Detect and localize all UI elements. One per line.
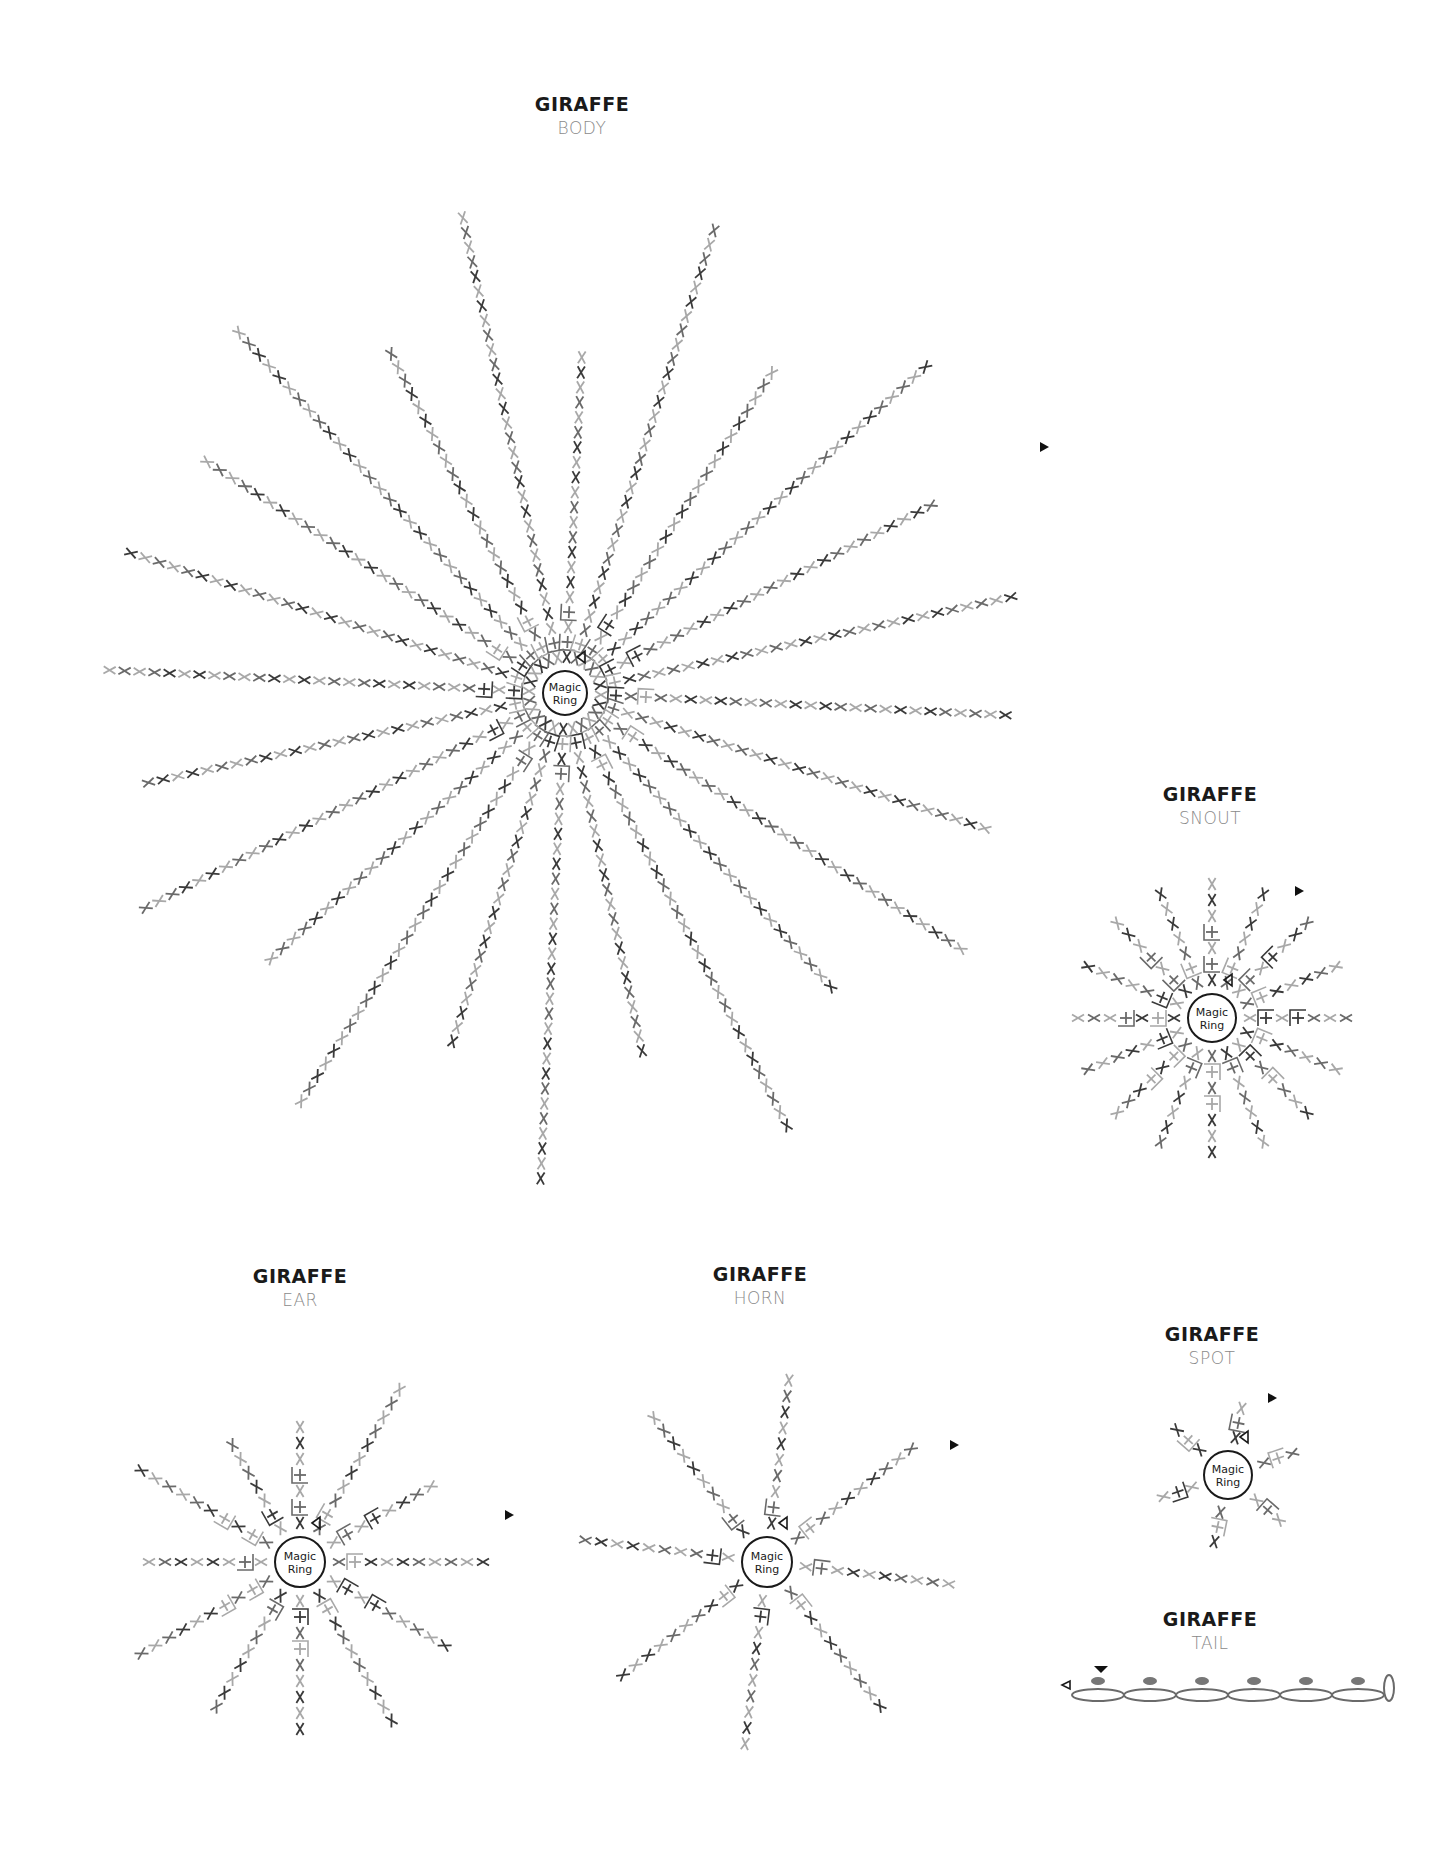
single-crochet-icon bbox=[480, 935, 491, 949]
single-crochet-icon bbox=[960, 602, 973, 612]
single-crochet-icon bbox=[1289, 1095, 1303, 1109]
front-loop-stitch-icon bbox=[713, 1585, 735, 1607]
single-crochet-icon bbox=[446, 745, 460, 757]
single-crochet-icon bbox=[1111, 1051, 1125, 1062]
front-loop-stitch-icon bbox=[1204, 924, 1220, 940]
single-crochet-icon bbox=[849, 704, 861, 712]
front-loop-stitch-icon bbox=[1150, 1010, 1166, 1026]
single-crochet-icon bbox=[433, 751, 447, 763]
single-crochet-icon bbox=[498, 741, 512, 754]
single-crochet-icon bbox=[258, 1616, 270, 1630]
single-crochet-icon bbox=[276, 942, 290, 955]
single-crochet-icon bbox=[494, 615, 507, 629]
front-loop-stitch-icon bbox=[476, 681, 493, 698]
single-crochet-icon bbox=[283, 675, 295, 683]
single-crochet-icon bbox=[765, 820, 779, 833]
single-crochet-icon bbox=[1088, 1014, 1100, 1021]
single-crochet-icon bbox=[999, 711, 1011, 719]
single-crochet-icon bbox=[919, 360, 933, 373]
single-crochet-icon bbox=[475, 949, 486, 963]
single-crochet-icon bbox=[895, 1574, 908, 1583]
single-crochet-icon bbox=[1168, 1014, 1180, 1021]
single-crochet-icon bbox=[618, 632, 632, 645]
single-crochet-icon bbox=[682, 662, 695, 672]
single-crochet-icon bbox=[457, 1006, 468, 1020]
chain-stitch-icon bbox=[1280, 1689, 1332, 1701]
single-crochet-icon bbox=[467, 658, 481, 669]
single-crochet-icon bbox=[512, 461, 522, 474]
single-crochet-icon bbox=[495, 561, 507, 575]
single-crochet-icon bbox=[438, 649, 452, 660]
single-crochet-icon bbox=[580, 623, 591, 637]
single-crochet-icon bbox=[454, 480, 466, 494]
single-crochet-icon bbox=[774, 924, 787, 938]
single-crochet-icon bbox=[516, 820, 527, 834]
single-crochet-icon bbox=[1231, 1431, 1240, 1444]
single-crochet-icon bbox=[824, 980, 837, 994]
single-crochet-icon bbox=[1167, 1105, 1178, 1119]
single-crochet-icon bbox=[515, 601, 527, 615]
single-crochet-icon bbox=[498, 779, 511, 793]
single-crochet-icon bbox=[546, 622, 556, 635]
single-crochet-icon bbox=[401, 930, 414, 944]
horn-diagram: MagicRing bbox=[579, 1374, 959, 1750]
single-crochet-icon bbox=[897, 513, 911, 525]
single-crochet-icon bbox=[347, 734, 360, 744]
single-crochet-icon bbox=[225, 472, 239, 485]
single-crochet-icon bbox=[461, 494, 473, 508]
single-crochet-icon bbox=[200, 456, 214, 469]
single-crochet-icon bbox=[388, 681, 400, 689]
single-crochet-icon bbox=[377, 570, 391, 583]
single-crochet-icon bbox=[585, 609, 596, 623]
single-crochet-icon bbox=[775, 700, 787, 708]
single-crochet-icon bbox=[612, 927, 622, 940]
single-crochet-icon bbox=[296, 1437, 303, 1449]
front-loop-stitch-icon bbox=[1261, 1067, 1284, 1090]
single-crochet-icon bbox=[594, 681, 607, 691]
single-crochet-icon bbox=[724, 602, 738, 614]
chain-stitch-icon bbox=[1228, 1689, 1280, 1701]
single-crochet-icon bbox=[697, 616, 711, 628]
single-crochet-icon bbox=[166, 888, 180, 900]
single-crochet-icon bbox=[700, 252, 711, 266]
single-crochet-icon bbox=[1072, 1014, 1084, 1021]
end-marker-icon bbox=[1295, 886, 1304, 896]
single-crochet-icon bbox=[752, 511, 766, 524]
single-crochet-icon bbox=[1324, 1014, 1336, 1021]
single-crochet-icon bbox=[879, 1572, 892, 1581]
single-crochet-icon bbox=[631, 1015, 641, 1028]
single-crochet-icon bbox=[498, 877, 509, 891]
single-crochet-icon bbox=[553, 858, 561, 870]
single-crochet-icon bbox=[700, 696, 712, 704]
single-crochet-icon bbox=[830, 441, 844, 454]
single-crochet-icon bbox=[589, 595, 600, 609]
single-crochet-icon bbox=[345, 1466, 357, 1480]
single-crochet-icon bbox=[421, 718, 434, 728]
single-crochet-icon bbox=[784, 640, 797, 650]
single-crochet-icon bbox=[577, 766, 587, 779]
ear-diagram: MagicRing bbox=[135, 1383, 514, 1735]
single-crochet-icon bbox=[438, 1639, 452, 1651]
single-crochet-icon bbox=[1237, 1402, 1246, 1415]
single-crochet-icon bbox=[425, 893, 438, 907]
single-crochet-icon bbox=[702, 780, 716, 793]
single-crochet-icon bbox=[1285, 1045, 1299, 1056]
single-crochet-icon bbox=[637, 1044, 647, 1057]
single-crochet-icon bbox=[382, 1504, 396, 1516]
single-crochet-icon bbox=[418, 682, 430, 690]
single-crochet-icon bbox=[251, 488, 265, 501]
single-crochet-icon bbox=[252, 348, 265, 362]
single-crochet-icon bbox=[1096, 967, 1110, 978]
single-crochet-icon bbox=[352, 1006, 365, 1020]
single-crochet-icon bbox=[857, 534, 871, 546]
single-crochet-icon bbox=[377, 727, 390, 737]
single-crochet-icon bbox=[921, 805, 935, 816]
single-crochet-icon bbox=[625, 692, 637, 700]
single-crochet-icon bbox=[406, 721, 419, 731]
single-crochet-icon bbox=[630, 825, 642, 839]
single-crochet-icon bbox=[419, 758, 433, 770]
single-crochet-icon bbox=[580, 780, 590, 793]
single-crochet-icon bbox=[593, 839, 603, 852]
single-crochet-icon bbox=[558, 753, 566, 765]
single-crochet-icon bbox=[764, 582, 778, 594]
